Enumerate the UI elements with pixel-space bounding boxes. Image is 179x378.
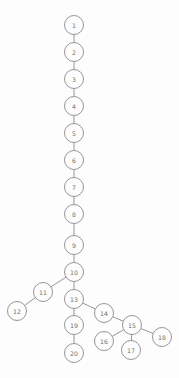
graph-edge-13-14: [83, 303, 96, 309]
node-label-7: 7: [72, 184, 76, 191]
graph-node-5[interactable]: 5: [65, 124, 84, 143]
node-layer: 1234567891011121314151617181920: [8, 16, 172, 363]
graph-node-13[interactable]: 13: [65, 290, 84, 309]
node-label-15: 15: [128, 322, 136, 329]
node-label-3: 3: [72, 76, 76, 83]
graph-node-15[interactable]: 15: [123, 316, 142, 335]
graph-edge-15-16: [112, 330, 124, 337]
node-label-17: 17: [127, 347, 135, 354]
graph-node-19[interactable]: 19: [65, 316, 84, 335]
node-label-9: 9: [72, 242, 76, 249]
node-label-14: 14: [100, 310, 108, 317]
graph-node-10[interactable]: 10: [65, 263, 84, 282]
graph-node-16[interactable]: 16: [95, 332, 114, 351]
node-label-8: 8: [72, 211, 76, 218]
node-label-20: 20: [70, 350, 78, 357]
node-label-10: 10: [70, 269, 78, 276]
graph-node-9[interactable]: 9: [65, 236, 84, 255]
node-label-18: 18: [158, 334, 166, 341]
graph-node-8[interactable]: 8: [65, 205, 84, 224]
node-label-2: 2: [72, 49, 76, 56]
graph-node-17[interactable]: 17: [122, 341, 141, 360]
node-label-12: 12: [13, 308, 21, 315]
graph-node-1[interactable]: 1: [65, 16, 84, 35]
graph-edge-11-12: [25, 298, 36, 306]
graph-node-3[interactable]: 3: [65, 70, 84, 89]
graph-node-18[interactable]: 18: [153, 328, 172, 347]
node-label-19: 19: [70, 322, 78, 329]
graph-node-2[interactable]: 2: [65, 43, 84, 62]
graph-node-14[interactable]: 14: [95, 304, 114, 323]
graph-node-4[interactable]: 4: [65, 97, 84, 116]
node-label-4: 4: [72, 103, 76, 110]
graph-node-12[interactable]: 12: [8, 302, 27, 321]
graph-edge-14-15: [113, 317, 124, 322]
graph-node-6[interactable]: 6: [65, 151, 84, 170]
graph-node-20[interactable]: 20: [65, 344, 84, 363]
node-label-5: 5: [72, 130, 76, 137]
node-label-13: 13: [70, 296, 78, 303]
graph-diagram: 1234567891011121314151617181920: [0, 0, 179, 378]
node-label-11: 11: [39, 289, 47, 296]
graph-svg-surface: 1234567891011121314151617181920: [0, 0, 179, 378]
graph-edge-15-18: [141, 329, 153, 334]
node-label-16: 16: [100, 338, 108, 345]
graph-node-11[interactable]: 11: [34, 283, 53, 302]
graph-edge-10-11: [51, 277, 66, 287]
graph-node-7[interactable]: 7: [65, 178, 84, 197]
node-label-1: 1: [72, 22, 76, 29]
node-label-6: 6: [72, 157, 76, 164]
